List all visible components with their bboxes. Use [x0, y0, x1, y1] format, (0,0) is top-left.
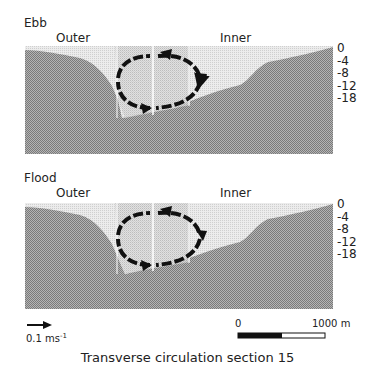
depth-tick: -18: [337, 92, 357, 105]
scale-end-label: 1000 m: [312, 318, 350, 329]
flood-cross-section: [25, 203, 333, 309]
inner-label: Inner: [220, 186, 251, 200]
depth-tick: 0: [337, 198, 357, 211]
depth-tick: 0: [337, 42, 357, 55]
ebb-cross-section: [25, 46, 333, 154]
velocity-legend: 0.1 ms-1: [26, 332, 67, 344]
arrow-right-icon: [27, 321, 52, 329]
depth-axis: 0 -4 -8 -12 -18: [337, 198, 357, 261]
depth-axis: 0 -4 -8 -12 -18: [337, 42, 357, 105]
velocity-exponent: -1: [60, 332, 67, 340]
outer-label: Outer: [56, 31, 90, 45]
figure-caption: Transverse circulation section 15: [0, 350, 375, 365]
outer-label: Outer: [56, 186, 90, 200]
depth-tick: -8: [337, 67, 357, 80]
scale-start-label: 0: [235, 318, 241, 329]
depth-tick: -8: [337, 223, 357, 236]
scale-bar: [238, 333, 325, 338]
panel-title-flood: Flood: [24, 171, 57, 185]
panel-title-ebb: Ebb: [24, 16, 47, 30]
depth-tick: -18: [337, 248, 357, 261]
velocity-value: 0.1 ms: [26, 333, 60, 344]
inner-label: Inner: [220, 31, 251, 45]
